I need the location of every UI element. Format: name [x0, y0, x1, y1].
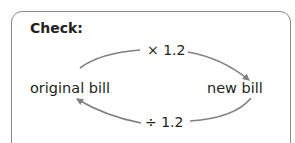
node-original-bill: original bill [30, 80, 110, 96]
divide-arrow [190, 98, 251, 121]
divide-label: ÷ 1.2 [145, 114, 183, 130]
node-new-bill: new bill [207, 80, 263, 96]
multiply-arrow-head [188, 52, 249, 80]
multiply-label: × 1.2 [147, 42, 185, 58]
multiply-arrow [80, 50, 140, 68]
divide-arrow-head [77, 99, 141, 123]
